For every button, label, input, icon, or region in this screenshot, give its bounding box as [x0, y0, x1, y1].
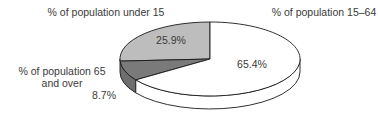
value-label-65-and-over: 8.7% [92, 89, 116, 101]
value-label-15-64: 65.4% [237, 58, 267, 70]
value-label-under-15: 25.9% [156, 34, 186, 46]
category-label-65-and-over-line2: and over [42, 77, 83, 89]
category-label-15-64: % of population 15–64 [272, 6, 377, 18]
pie-chart: 25.9% 65.4% % of population under 15 % o… [0, 0, 378, 126]
category-label-65-and-over-line1: % of population 65 [19, 65, 106, 77]
category-label-under-15: % of population under 15 [48, 6, 165, 18]
